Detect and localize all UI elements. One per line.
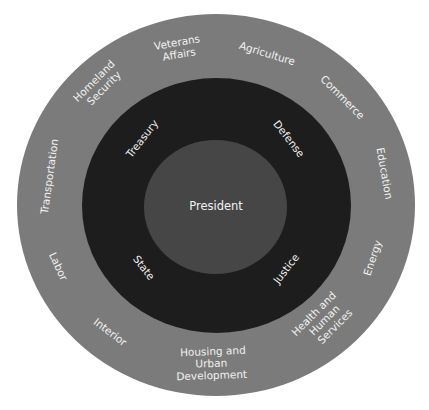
- center-label-president: President: [189, 199, 243, 213]
- svg-text:Urban: Urban: [195, 357, 227, 370]
- cabinet-diagram: President Treasury Defense State Justice…: [0, 0, 429, 410]
- svg-text:Housing and: Housing and: [180, 344, 246, 358]
- svg-text:Development: Development: [176, 368, 247, 382]
